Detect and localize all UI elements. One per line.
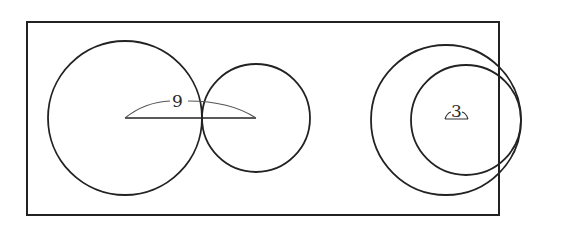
frame-rectangle [27,22,499,215]
distance-arc-left [125,101,170,118]
circles-diagram: 9 3 [0,0,568,226]
distance-arc-right [188,101,256,118]
distance-label-3: 3 [451,101,462,121]
right-small-circle [411,65,521,175]
figure-canvas: 9 3 [0,0,568,226]
distance-label-9: 9 [172,91,183,111]
